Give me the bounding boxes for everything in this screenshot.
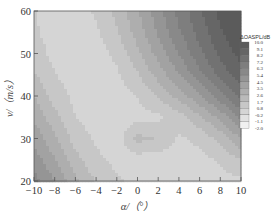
- colorbar-label: 4.5: [257, 80, 264, 85]
- colorbar-band: [240, 49, 249, 56]
- colorbar-band: [240, 95, 249, 102]
- x-axis-title: α/（°）: [121, 201, 154, 212]
- x-tick-label: −2: [111, 185, 122, 196]
- colorbar-label: 7.2: [257, 60, 264, 65]
- y-tick-label: 20: [21, 176, 32, 187]
- y-tick-label: 60: [21, 6, 32, 17]
- colorbar-label: 3.5: [257, 86, 264, 91]
- colorbar-label: -1.1: [255, 119, 263, 124]
- colorbar-label: 5.4: [257, 73, 264, 78]
- y-axis-title: v/（m/s）: [4, 75, 15, 117]
- colorbar-label: 0.8: [257, 106, 264, 111]
- colorbar-label: -0.2: [255, 113, 263, 118]
- x-tick-label: −4: [91, 185, 103, 196]
- colorbar-label: 1.7: [257, 100, 264, 105]
- x-tick-label: 2: [156, 185, 161, 196]
- colorbar-legend: ΔOASPL/dB 10.09.18.27.26.35.44.53.52.61.…: [240, 34, 271, 131]
- contour-field: [34, 11, 241, 182]
- y-tick-label: 50: [21, 49, 32, 60]
- colorbar-band: [240, 55, 249, 62]
- colorbar-band: [240, 62, 249, 69]
- x-tick-label: −6: [70, 185, 81, 196]
- x-tick-label: 8: [218, 185, 223, 196]
- x-tick-label: 0: [135, 185, 140, 196]
- colorbar-band: [240, 88, 249, 95]
- colorbar-label: 8.2: [257, 53, 264, 58]
- colorbar-label: 6.3: [257, 66, 264, 71]
- y-tick-label: 40: [21, 91, 32, 102]
- colorbar-labels: 10.09.18.27.26.35.44.53.52.61.70.8-0.2-1…: [254, 40, 263, 131]
- colorbar-band: [240, 42, 249, 49]
- colorbar-band: [240, 108, 249, 115]
- x-tick-label: 4: [176, 185, 182, 196]
- colorbar-label: 2.6: [257, 93, 264, 98]
- colorbar-band: [240, 75, 249, 82]
- colorbar-band: [240, 121, 249, 128]
- x-tick-label: −8: [49, 185, 60, 196]
- colorbar-label: 10.0: [254, 40, 263, 45]
- colorbar-label: 9.1: [257, 47, 264, 52]
- contour-chart: −10−8−6−4−20246810 2030405060 α/（°） v/（m…: [0, 0, 278, 218]
- colorbar-band: [240, 82, 249, 89]
- colorbar-band: [240, 102, 249, 109]
- colorbar-band: [240, 68, 249, 75]
- colorbar-label: -2.0: [255, 126, 263, 131]
- y-tick-label: 30: [21, 134, 32, 145]
- x-tick-label: 10: [236, 185, 247, 196]
- colorbar: [240, 42, 249, 128]
- x-tick-label: 6: [197, 185, 202, 196]
- colorbar-band: [240, 115, 249, 122]
